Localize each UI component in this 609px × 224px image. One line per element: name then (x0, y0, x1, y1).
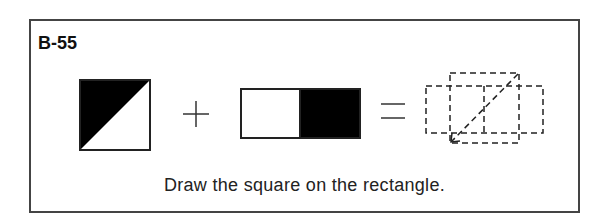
rectangle-figure (241, 89, 360, 138)
instruction-text: Draw the square on the rectangle. (0, 175, 609, 196)
square-figure (80, 80, 150, 150)
equals-icon (381, 104, 405, 118)
plus-icon (183, 101, 209, 127)
result-figure (426, 73, 543, 143)
